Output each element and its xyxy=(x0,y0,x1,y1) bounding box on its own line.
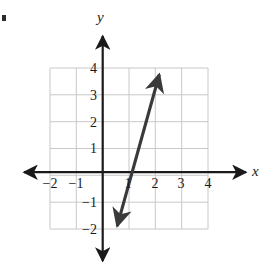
x-tick-label-2: 2 xyxy=(147,177,163,191)
y-axis-label: y xyxy=(97,10,104,25)
x-tick-label--2: −2 xyxy=(40,177,60,191)
plotted-line xyxy=(117,75,159,227)
x-tick-label-1: 1 xyxy=(120,177,136,191)
y-tick-label-2: 2 xyxy=(81,116,97,130)
y-tick-label--1: −1 xyxy=(75,196,97,210)
x-tick-label--1: −1 xyxy=(66,177,86,191)
x-axis-label: x xyxy=(252,164,259,179)
y-tick-label-3: 3 xyxy=(81,89,97,103)
x-tick-label-3: 3 xyxy=(173,177,189,191)
coordinate-plane-svg xyxy=(0,0,272,273)
y-tick-label-4: 4 xyxy=(81,62,97,76)
x-tick-label-4: 4 xyxy=(200,177,216,191)
y-tick-label-1: 1 xyxy=(81,142,97,156)
y-tick-label--2: −2 xyxy=(75,223,97,237)
graph-figure: y x −2 −1 1 2 3 4 4 3 2 1 −1 −2 xyxy=(0,0,272,273)
grid-lines xyxy=(50,68,208,229)
